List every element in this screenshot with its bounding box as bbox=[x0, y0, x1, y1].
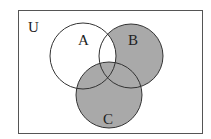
set-b-label: B bbox=[128, 32, 138, 48]
set-c-label: C bbox=[103, 111, 113, 127]
universe-label: U bbox=[28, 19, 39, 35]
set-a-label: A bbox=[78, 32, 89, 48]
venn-diagram: U A B C bbox=[0, 0, 211, 139]
